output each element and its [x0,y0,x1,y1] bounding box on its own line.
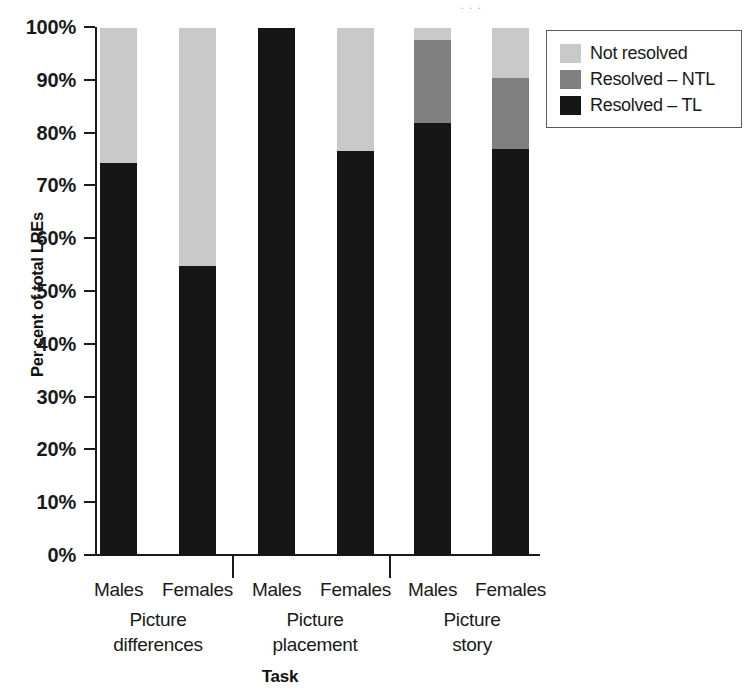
y-axis-tick-label: 60% [4,228,76,248]
bar-segment [258,28,295,556]
bar-6 [492,28,529,556]
bar-segment [492,28,529,78]
bar-5 [414,28,451,556]
y-axis-tick [84,132,95,134]
bar-segment [179,266,216,556]
bar-2 [179,28,216,556]
y-axis-tick-label: 40% [4,334,76,354]
y-axis-tick [84,237,95,239]
bar-segment [414,40,451,123]
y-axis-tick-label: 50% [4,281,76,301]
legend-swatch-icon [560,44,581,63]
bar-segment [337,151,374,557]
y-axis-tick [84,26,95,28]
y-axis-tick-label: 0% [4,545,76,565]
bar-segment [492,78,529,149]
x-axis-group-label: Pictureplacement [225,607,405,657]
y-axis-tick [84,501,95,503]
group-label-line1: Picture [225,607,405,632]
y-axis-tick [84,290,95,292]
y-axis-tick [84,554,95,556]
y-axis-tick [84,396,95,398]
y-axis-tick [84,79,95,81]
group-label-line2: differences [68,632,248,657]
legend-label: Not resolved [590,44,687,62]
y-axis-tick-label: 70% [4,175,76,195]
group-separator [232,556,234,578]
legend-swatch-icon [560,96,581,115]
y-axis-tick [84,343,95,345]
bar-segment [492,149,529,556]
group-label-line2: story [382,632,562,657]
group-label-line1: Picture [68,607,248,632]
legend-item: Resolved – TL [560,92,733,118]
bar-segment [100,28,137,163]
x-axis-title: Task [0,667,560,687]
scan-artifact-text: · · · [460,0,690,14]
y-axis-tick [84,448,95,450]
stacked-bar-chart: · · · Per cent of total LREs 100%90%80%7… [0,0,752,699]
bar-1 [100,28,137,556]
legend-item: Not resolved [560,40,733,66]
legend-label: Resolved – NTL [590,70,715,88]
y-axis-tick-label: 90% [4,70,76,90]
group-label-line2: placement [225,632,405,657]
x-axis-line [84,554,540,556]
x-axis-group-label: Picturestory [382,607,562,657]
legend-item: Resolved – NTL [560,66,733,92]
y-axis-tick-label: 20% [4,439,76,459]
x-axis-category-label: Females [451,580,571,599]
bar-segment [179,28,216,266]
group-label-line1: Picture [382,607,562,632]
legend: Not resolvedResolved – NTLResolved – TL [546,30,742,128]
legend-label: Resolved – TL [590,96,702,114]
group-separator [389,556,391,578]
y-axis-line [95,27,97,556]
legend-swatch-icon [560,70,581,89]
bar-4 [337,28,374,556]
y-axis-tick-label: 80% [4,123,76,143]
y-axis-tick-label: 10% [4,492,76,512]
bar-segment [414,28,451,40]
bar-3 [258,28,295,556]
y-axis-tick [84,184,95,186]
x-axis-group-label: Picturedifferences [68,607,248,657]
y-axis-tick-label: 30% [4,387,76,407]
bar-segment [414,123,451,556]
y-axis-tick-label: 100% [4,17,76,37]
bar-segment [337,28,374,150]
bar-segment [100,163,137,556]
